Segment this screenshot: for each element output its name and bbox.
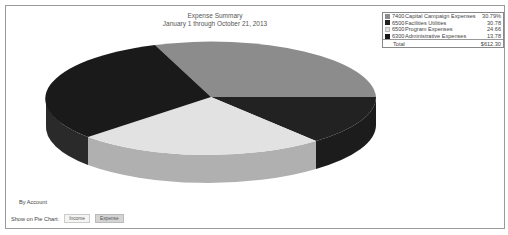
legend-code: 6300 <box>392 33 405 39</box>
legend-swatch <box>385 34 390 39</box>
income-button[interactable]: Income <box>64 214 90 223</box>
legend-name: Facilities Utilities <box>405 20 479 26</box>
pie-chart-controls: Show on Pie Chart: Income Expense <box>11 214 124 223</box>
legend-swatch <box>385 20 390 25</box>
legend-item: 6500 Facilities Utilities 30.78 <box>383 20 503 27</box>
legend-total-row: Total $612.30 <box>383 39 503 47</box>
by-account-label: By Account <box>19 199 47 205</box>
legend-code: 7400 <box>392 13 405 19</box>
legend-item: 7400 Capital Campaign Expenses 30.79% <box>383 13 503 20</box>
legend-total-label: Total <box>385 41 471 47</box>
legend-value: 13.78 <box>479 33 501 39</box>
legend-name: Program Expenses <box>405 26 479 32</box>
legend-code: 6500 <box>392 20 405 26</box>
legend-value: 24.66 <box>479 26 501 32</box>
legend-item: 6300 Administrative Expenses 13.78 <box>383 33 503 40</box>
legend-value: 30.78 <box>479 20 501 26</box>
legend-value: 30.79% <box>479 13 501 19</box>
show-on-pie-chart-label: Show on Pie Chart: <box>11 216 59 222</box>
legend-name: Administrative Expenses <box>405 33 479 39</box>
legend-total-value: $612.30 <box>471 41 501 47</box>
legend-swatch <box>385 14 390 19</box>
legend-code: 6500 <box>392 26 405 32</box>
legend-item: 6500 Program Expenses 24.66 <box>383 26 503 33</box>
chart-legend: 7400 Capital Campaign Expenses 30.79% 65… <box>382 12 504 48</box>
legend-swatch <box>385 27 390 32</box>
expense-button[interactable]: Expense <box>95 214 124 223</box>
legend-name: Capital Campaign Expenses <box>405 13 479 19</box>
